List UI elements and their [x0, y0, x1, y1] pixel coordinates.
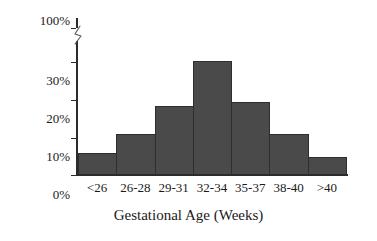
- x-tick-label-4: 35-37: [231, 180, 269, 195]
- histogram-chart: Percent of Population 100% 30% 20% 10% 0…: [0, 0, 377, 241]
- y-tick-mark-20: [71, 100, 76, 101]
- y-tick-label-100: 100%: [24, 14, 70, 27]
- x-axis-title: Gestational Age (Weeks): [0, 205, 377, 225]
- bar-lt-26: [78, 153, 117, 174]
- x-tick-label-3: 32-34: [193, 180, 231, 195]
- x-tick-label-0: <26: [78, 180, 116, 195]
- y-tick-label-20: 20%: [24, 112, 70, 125]
- x-tick-label-2: 29-31: [155, 180, 193, 195]
- bar-38-40: [269, 134, 308, 174]
- bar-32-34: [193, 61, 232, 174]
- x-axis-line: [76, 174, 348, 176]
- y-tick-mark-30: [71, 62, 76, 63]
- bar-26-28: [116, 134, 155, 174]
- y-tick-mark-100: [71, 28, 76, 29]
- x-axis-tick-labels: <26 26-28 29-31 32-34 35-37 38-40 >40: [78, 180, 346, 195]
- y-tick-label-30: 30%: [24, 74, 70, 87]
- x-tick-label-6: >40: [308, 180, 346, 195]
- plot-area: [76, 18, 348, 176]
- y-tick-label-10: 10%: [24, 150, 70, 163]
- bar-series: [78, 18, 346, 174]
- bar-35-37: [231, 102, 270, 174]
- y-tick-mark-0: [71, 175, 76, 176]
- y-tick-label-0: 0%: [24, 188, 70, 201]
- x-tick-label-5: 38-40: [269, 180, 307, 195]
- y-tick-mark-10: [71, 138, 76, 139]
- bar-gt-40: [308, 157, 347, 174]
- x-tick-label-1: 26-28: [116, 180, 154, 195]
- bar-29-31: [155, 106, 194, 174]
